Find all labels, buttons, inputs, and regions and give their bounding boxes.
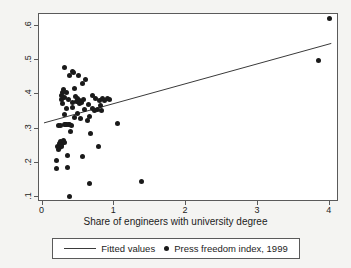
- x-tick-label: 1: [111, 206, 116, 215]
- scatter-point: [54, 166, 59, 171]
- x-tick-label: 0: [39, 206, 44, 215]
- legend-label-fitted-values: Fitted values: [101, 243, 155, 254]
- x-tick-label: 4: [326, 206, 331, 215]
- scatter-point: [62, 112, 67, 117]
- scatter-point: [115, 121, 120, 126]
- x-axis-title: Share of engineers with university degre…: [0, 216, 351, 227]
- scatter-point: [62, 65, 67, 70]
- scatter-point: [70, 105, 75, 110]
- scatter-point: [81, 97, 86, 102]
- x-tick-label: 2: [183, 206, 188, 215]
- scatter-point: [139, 179, 144, 184]
- y-tick-label: .5: [24, 52, 33, 66]
- y-tick-label: .2: [24, 155, 33, 169]
- scatter-point: [87, 114, 92, 119]
- scatter-points-layer: [39, 14, 337, 200]
- y-tick-label: .6: [24, 18, 33, 32]
- legend-dot-swatch: [164, 246, 169, 251]
- scatter-point: [87, 181, 92, 186]
- scatter-point: [64, 106, 69, 111]
- x-tick-label: 3: [254, 206, 259, 215]
- y-tick-mark: [34, 25, 38, 26]
- scatter-point: [65, 153, 70, 158]
- scatter-point: [80, 154, 85, 159]
- y-tick-mark: [34, 196, 38, 197]
- y-tick-label: .3: [24, 121, 33, 135]
- legend-entry-fitted-values: Fitted values: [64, 243, 155, 254]
- scatter-point: [78, 116, 83, 121]
- y-tick-mark: [34, 59, 38, 60]
- scatter-point: [62, 140, 67, 145]
- scatter-point: [83, 77, 88, 82]
- y-tick-mark: [34, 128, 38, 129]
- y-tick-mark: [34, 93, 38, 94]
- scatter-point: [76, 73, 81, 78]
- scatter-point: [96, 144, 101, 149]
- scatter-point: [82, 107, 87, 112]
- scatter-point: [99, 108, 104, 113]
- y-tick-mark: [34, 162, 38, 163]
- scatter-point: [54, 158, 59, 163]
- legend-line-swatch: [64, 248, 96, 249]
- scatter-point: [75, 111, 80, 116]
- plot-area: [38, 13, 338, 201]
- y-tick-label: .1: [24, 189, 33, 203]
- scatter-point: [64, 90, 69, 95]
- figure-canvas: 01234 .1.2.3.4.5.6 Share of engineers wi…: [0, 0, 351, 268]
- chart-legend: Fitted values Press freedom index, 1999: [52, 238, 300, 259]
- scatter-point: [69, 123, 74, 128]
- y-tick-label: .4: [24, 86, 33, 100]
- scatter-point: [316, 58, 321, 63]
- legend-entry-press-freedom-index: Press freedom index, 1999: [164, 243, 288, 254]
- scatter-point: [65, 165, 70, 170]
- scatter-point: [107, 97, 112, 102]
- scatter-point: [72, 115, 77, 120]
- scatter-point: [72, 86, 77, 91]
- scatter-point: [68, 129, 73, 134]
- scatter-point: [67, 194, 72, 199]
- legend-label-press-freedom-index: Press freedom index, 1999: [174, 243, 288, 254]
- scatter-point: [327, 16, 332, 21]
- scatter-point: [88, 131, 93, 136]
